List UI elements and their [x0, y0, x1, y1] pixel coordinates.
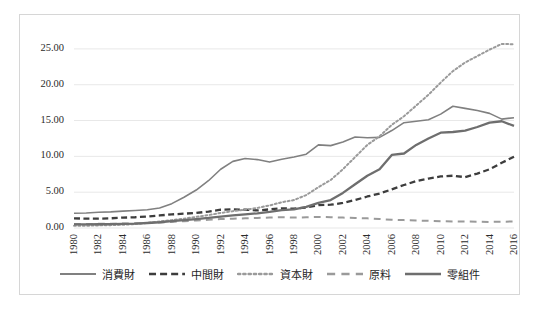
dashed-line-marker [148, 268, 186, 280]
legend-item-5[interactable]: 零組件 [404, 266, 480, 282]
y-axis-tick-label: 25.00 [20, 42, 64, 53]
y-axis-tick-label: 10.00 [20, 149, 64, 160]
chart-container: 0.005.0010.0015.0020.0025.00 19801982198… [0, 0, 546, 316]
legend-item-3[interactable]: 資本財 [237, 266, 313, 282]
x-axis-tick-label: 2004 [361, 234, 372, 255]
y-axis-tick-label: 5.00 [20, 185, 64, 196]
series-lines [74, 44, 514, 226]
legend-item-label: 原料 [369, 266, 391, 282]
x-axis-tick-label: 1988 [166, 234, 177, 255]
series-line-1 [74, 106, 514, 213]
x-axis-tick-label: 2016 [508, 234, 519, 255]
legend-item-label: 中間財 [191, 266, 224, 282]
legend-item-label: 零組件 [447, 266, 480, 282]
x-axis-tick-label: 1990 [190, 234, 201, 255]
x-axis-tick-label: 1984 [117, 234, 128, 255]
x-axis-tick-label: 2010 [435, 234, 446, 255]
series-line-5 [74, 121, 514, 224]
x-axis-tick-label: 2012 [459, 234, 470, 255]
x-axis-tick-label: 1982 [92, 234, 103, 255]
gridlines [74, 49, 514, 228]
x-axis-tick-label: 1980 [68, 234, 79, 255]
x-axis-tick-label: 1996 [264, 234, 275, 255]
y-axis-tick-label: 20.00 [20, 78, 64, 89]
x-axis-tick-label: 2000 [312, 234, 323, 255]
x-axis-tick-label: 2006 [386, 234, 397, 255]
legend-item-label: 消費財 [102, 266, 135, 282]
x-axis-tick-label: 1986 [141, 234, 152, 255]
legend-item-label: 資本財 [280, 266, 313, 282]
legend-item-4[interactable]: 原料 [326, 266, 391, 282]
y-axis-tick-label: 15.00 [20, 114, 64, 125]
x-axis-tick-label: 1994 [239, 234, 250, 255]
legend-item-2[interactable]: 中間財 [148, 266, 224, 282]
x-axis-tick-label: 2008 [410, 234, 421, 255]
x-axis-tick-label: 1992 [215, 234, 226, 255]
long-dash-line-marker [326, 268, 364, 280]
x-axis-tick-label: 1998 [288, 234, 299, 255]
y-axis-tick-label: 0.00 [20, 221, 64, 232]
chart-legend: 消費財中間財資本財原料零組件 [19, 262, 520, 286]
solid-thick-line-marker [404, 268, 442, 280]
legend-item-1[interactable]: 消費財 [59, 266, 135, 282]
x-axis-tick-label: 2002 [337, 234, 348, 255]
x-axis-tick-label: 2014 [484, 234, 495, 255]
solid-thin-line-marker [59, 268, 97, 280]
series-line-3 [74, 44, 514, 226]
chart-frame: 0.005.0010.0015.0020.0025.00 19801982198… [19, 14, 520, 295]
dotted-line-marker [237, 268, 275, 280]
